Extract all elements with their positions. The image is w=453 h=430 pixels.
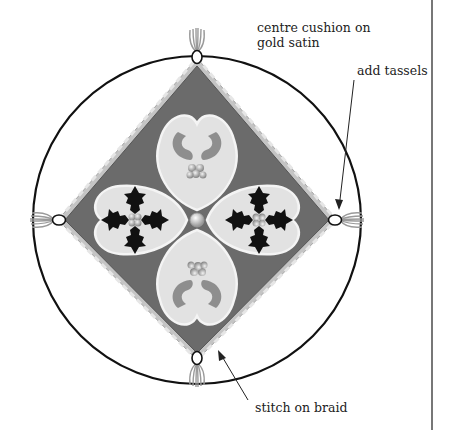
tassel-bottom	[190, 352, 204, 388]
tassel-ring-icon	[192, 51, 202, 64]
tassel-ring-icon	[53, 215, 66, 225]
label-centre-cushion: centre cushion on gold satin	[257, 20, 370, 50]
tassel-left	[30, 213, 66, 227]
tassel-top	[190, 28, 204, 64]
centre-bead-icon	[190, 213, 204, 227]
arrow-add-tassels	[335, 80, 354, 210]
arrow-stitch-on-braid	[218, 350, 248, 400]
tassel-ring-icon	[329, 215, 342, 225]
tassel-right	[329, 213, 365, 227]
label-add-tassels: add tassels	[357, 63, 428, 78]
label-centre-line1: centre cushion on	[257, 20, 370, 35]
label-centre-line2: gold satin	[257, 35, 370, 50]
tassel-ring-icon	[192, 352, 202, 365]
label-stitch-on-braid: stitch on braid	[255, 400, 347, 415]
